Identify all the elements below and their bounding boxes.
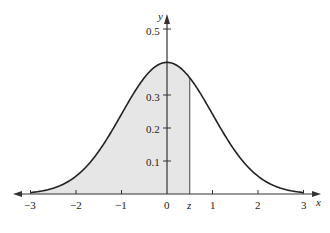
x-tick-label: 0: [164, 199, 170, 211]
y-tick-label: 0.5: [146, 25, 160, 37]
z-tick-label: z: [186, 199, 192, 211]
x-tick-label: −2: [70, 199, 82, 211]
y-tick-label: 0.2: [146, 123, 160, 135]
y-axis-arrow-icon: [164, 14, 170, 24]
x-tick-label: −3: [24, 199, 36, 211]
x-tick-label: 3: [301, 199, 307, 211]
y-tick-label: 0.3: [146, 91, 160, 103]
y-axis-label: y: [157, 10, 163, 22]
x-tick-label: 2: [255, 199, 261, 211]
x-axis-left-arrow-icon: [13, 191, 22, 197]
x-tick-label: −1: [115, 199, 127, 211]
y-tick-label: 0.1: [146, 156, 160, 168]
x-axis-label: x: [315, 196, 321, 208]
x-tick-label: 1: [210, 199, 216, 211]
normal-distribution-chart: y x 0.5 0.3 0.2 0.1 −3 −2 −1 0 z 1 2 3: [0, 0, 330, 233]
